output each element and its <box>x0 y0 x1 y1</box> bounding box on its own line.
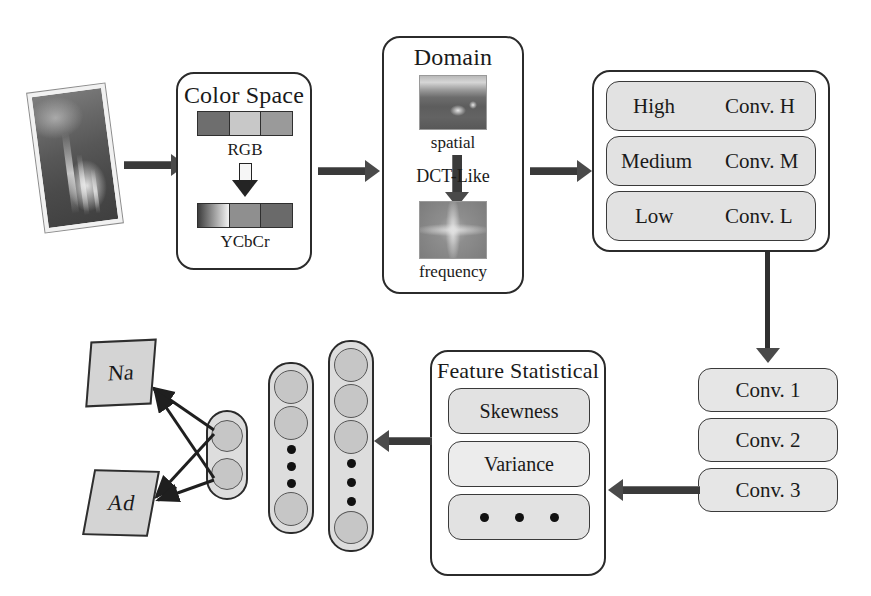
ycbcr-label: YCbCr <box>197 232 293 252</box>
spatial-label: spatial <box>406 133 500 153</box>
output-label-na-text: Na <box>107 359 135 386</box>
output-layer[interactable] <box>206 410 248 500</box>
vertical-ellipsis-icon <box>347 454 356 511</box>
output-label-ad[interactable]: Ad <box>82 469 160 537</box>
nn-node <box>334 384 368 418</box>
feature-item-skewness[interactable]: Skewness <box>448 388 590 434</box>
hidden-layer-1[interactable] <box>268 362 314 534</box>
conv-label-medium: Conv. M <box>725 149 798 174</box>
band-label-low: Low <box>635 204 674 229</box>
nn-node <box>211 420 243 452</box>
conv-stack-item-3[interactable]: Conv. 3 <box>698 468 838 512</box>
conv-stack-label-1: Conv. 1 <box>735 378 800 403</box>
band-label-medium: Medium <box>621 149 692 174</box>
feature-statistical-title: Feature Statistical <box>432 358 604 384</box>
feature-item-variance[interactable]: Variance <box>448 441 590 487</box>
arrow-conv-to-feature-statistical <box>608 479 700 501</box>
nn-node <box>274 370 308 404</box>
nn-node <box>274 492 308 526</box>
band-label-high: High <box>633 94 675 119</box>
output-label-na[interactable]: Na <box>85 339 157 408</box>
hidden-layer-2[interactable] <box>328 340 374 552</box>
conv-label-low: Conv. L <box>725 204 792 229</box>
ycbcr-color-bar <box>197 203 293 228</box>
connector-bands-to-conv-stack <box>765 252 770 356</box>
horizontal-ellipsis-icon <box>480 513 559 522</box>
feature-label-skewness: Skewness <box>480 400 559 423</box>
band-row-medium[interactable]: Medium Conv. M <box>606 136 816 186</box>
feature-item-more[interactable] <box>448 494 590 540</box>
input-image <box>27 84 123 233</box>
rgb-label: RGB <box>197 140 293 160</box>
domain-title: Domain <box>384 44 522 71</box>
nn-node <box>334 348 368 382</box>
down-arrow-icon-colorspace <box>231 163 259 197</box>
feature-label-variance: Variance <box>484 453 554 476</box>
conv-stack-item-1[interactable]: Conv. 1 <box>698 368 838 412</box>
arrow-domain-to-bands <box>530 160 592 182</box>
arrow-colorspace-to-domain <box>318 160 380 182</box>
conv-stack-label-2: Conv. 2 <box>735 428 800 453</box>
dct-like-label: DCT-Like <box>386 166 520 187</box>
band-row-high[interactable]: High Conv. H <box>606 81 816 131</box>
nn-node <box>334 420 368 454</box>
conv-stack-label-3: Conv. 3 <box>735 478 800 503</box>
conv-stack-item-2[interactable]: Conv. 2 <box>698 418 838 462</box>
frequency-domain-thumbnail <box>419 201 487 259</box>
diagram-canvas: Color Space RGB YCbCr Domain spatial DCT… <box>0 0 871 596</box>
color-space-title: Color Space <box>178 82 310 109</box>
output-label-ad-text: Ad <box>105 490 137 517</box>
nn-node <box>211 458 243 490</box>
frequency-label: frequency <box>396 262 510 282</box>
vertical-ellipsis-icon <box>287 441 296 492</box>
nn-node <box>334 511 368 544</box>
conv-label-high: Conv. H <box>725 94 795 119</box>
spatial-domain-thumbnail <box>419 75 487 130</box>
arrow-head-to-conv-stack <box>756 344 780 366</box>
arrow-feature-statistical-to-classifier <box>374 430 432 452</box>
nn-node <box>274 406 308 440</box>
band-row-low[interactable]: Low Conv. L <box>606 191 816 241</box>
rgb-color-bar <box>197 111 293 136</box>
